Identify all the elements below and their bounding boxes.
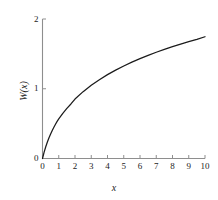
y-tick-label: 0 [23, 154, 39, 163]
x-tick-label: 4 [100, 162, 116, 171]
data-curve-lambert-w [43, 37, 206, 159]
chart-figure: 012345678910 012 W(x) x [0, 0, 218, 200]
y-tick-label: 2 [23, 15, 39, 24]
x-tick-label: 2 [67, 162, 83, 171]
x-tick-label: 8 [165, 162, 181, 171]
x-tick-label: 6 [132, 162, 148, 171]
y-axis-title: W(x) [19, 69, 29, 113]
x-tick-label: 10 [197, 162, 213, 171]
x-tick-label: 3 [83, 162, 99, 171]
x-tick-label: 5 [116, 162, 132, 171]
x-tick-label: 9 [181, 162, 197, 171]
x-tick-label: 7 [148, 162, 164, 171]
x-axis-title: x [107, 183, 121, 193]
x-tick-label: 1 [51, 162, 67, 171]
